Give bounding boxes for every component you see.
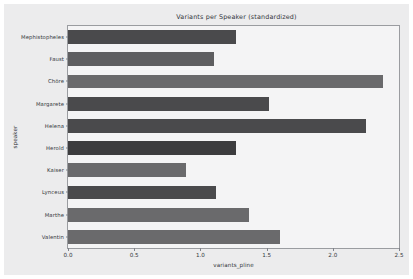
y-tick-mark [66, 59, 69, 60]
bar[interactable] [68, 97, 269, 111]
bar[interactable] [68, 208, 249, 222]
bar-row: Mephistopheles [68, 30, 399, 44]
y-tick-label: Mephistopheles [21, 34, 64, 40]
bar-row: Faust [68, 52, 399, 66]
y-tick-label: Chöre [48, 78, 64, 84]
chart-title: Variants per Speaker (standardized) [4, 13, 409, 21]
x-tick-mark [134, 248, 135, 251]
bar-row: Margarete [68, 97, 399, 111]
bar-row: Marthe [68, 208, 399, 222]
y-tick-label: Herold [46, 145, 64, 151]
x-tick-mark [267, 248, 268, 251]
y-axis-label-text: speaker [12, 126, 18, 149]
y-tick-mark [66, 236, 69, 237]
y-tick-mark [66, 192, 69, 193]
y-tick-label: Faust [50, 56, 65, 62]
bar[interactable] [68, 119, 366, 133]
bar[interactable] [68, 186, 216, 200]
x-tick-mark [68, 248, 69, 251]
x-tick-label: 2.5 [395, 252, 404, 258]
figure-canvas: Variants per Speaker (standardized) spea… [4, 4, 409, 275]
y-tick-mark [66, 37, 69, 38]
bar[interactable] [68, 52, 214, 66]
y-tick-label: Margarete [36, 101, 64, 107]
x-tick-mark [333, 248, 334, 251]
bar-row: Herold [68, 141, 399, 155]
chart-screenshot: Variants per Speaker (standardized) spea… [0, 0, 413, 279]
x-tick-label: 1.5 [262, 252, 271, 258]
x-tick-mark [399, 248, 400, 251]
bars-container: MephistophelesFaustChöreMargareteHelenaH… [68, 26, 399, 248]
y-tick-mark [66, 103, 69, 104]
y-axis-label: speaker [10, 25, 20, 249]
plot-axes: MephistophelesFaustChöreMargareteHelenaH… [67, 25, 400, 249]
bar[interactable] [68, 163, 186, 177]
bar-row: Kaiser [68, 163, 399, 177]
x-tick-label: 2.0 [328, 252, 337, 258]
x-tick-mark [200, 248, 201, 251]
bar-row: Valentin [68, 230, 399, 244]
x-tick-label: 0.5 [130, 252, 139, 258]
y-tick-label: Kaiser [47, 167, 64, 173]
bar[interactable] [68, 230, 280, 244]
x-tick-label: 1.0 [196, 252, 205, 258]
y-tick-label: Valentin [42, 234, 64, 240]
x-tick-label: 0.0 [64, 252, 73, 258]
bar-row: Chöre [68, 75, 399, 89]
x-axis-label: variants_pline [67, 262, 400, 268]
bar[interactable] [68, 75, 383, 89]
y-tick-label: Lynceus [42, 189, 64, 195]
y-tick-label: Helena [45, 123, 64, 129]
y-tick-mark [66, 214, 69, 215]
bar-row: Helena [68, 119, 399, 133]
y-tick-mark [66, 125, 69, 126]
bar-row: Lynceus [68, 186, 399, 200]
bar[interactable] [68, 30, 236, 44]
y-tick-mark [66, 148, 69, 149]
y-tick-mark [66, 81, 69, 82]
y-tick-mark [66, 170, 69, 171]
y-tick-label: Marthe [45, 212, 64, 218]
bar[interactable] [68, 141, 236, 155]
